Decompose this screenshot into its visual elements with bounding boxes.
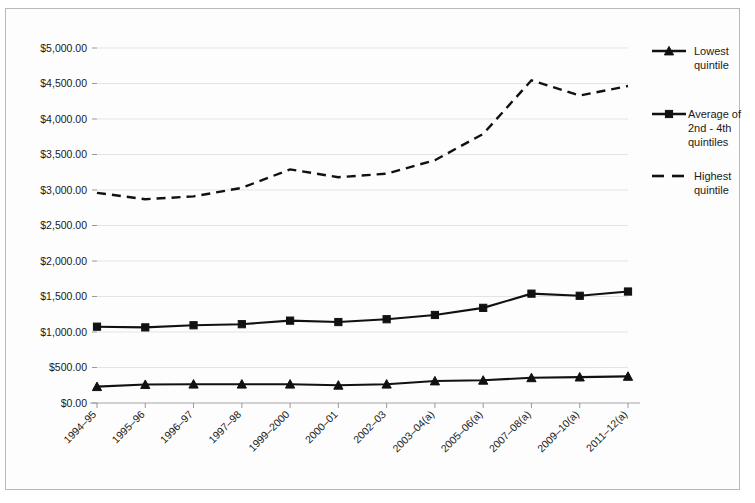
- y-axis-tick-label: $0.00: [61, 397, 87, 409]
- y-axis-tick-label: $4,500.00: [40, 77, 87, 89]
- data-point-marker: [190, 322, 197, 329]
- x-tickmarks-group: [97, 403, 628, 408]
- x-axis-tick-label: 1994–95: [61, 408, 99, 446]
- series-line-2: [97, 292, 628, 328]
- legend-label-2: 2nd - 4th: [688, 122, 731, 134]
- line-chart: $0.00$500.00$1,000.00$1,500.00$2,000.00$…: [0, 0, 755, 503]
- data-point-marker: [238, 321, 245, 328]
- legend-label-1: quintile: [694, 59, 729, 71]
- y-axis-tick-label: $5,000.00: [40, 42, 87, 54]
- y-axis-tick-label: $3,000.00: [40, 184, 87, 196]
- series-line-1: [97, 376, 628, 386]
- data-point-marker: [142, 324, 149, 331]
- data-point-marker: [93, 323, 100, 330]
- series-lines-group: [97, 80, 628, 386]
- legend-label-3: quintile: [694, 184, 729, 196]
- legend-label-2: quintiles: [688, 136, 729, 148]
- chart-canvas: $0.00$500.00$1,000.00$1,500.00$2,000.00$…: [0, 0, 755, 503]
- series-markers-group: [92, 288, 632, 391]
- x-axis-tick-label: 2009–10(a): [535, 408, 581, 454]
- data-point-marker: [383, 316, 390, 323]
- x-axis-tick-label: 1997–98: [206, 408, 244, 446]
- x-axis-tick-label: 2003–04(a): [390, 408, 436, 454]
- x-axis-tick-label: 2002–03: [351, 408, 389, 446]
- x-axis-tick-label: 1996–97: [158, 408, 196, 446]
- x-axis-tick-label: 2005–06(a): [438, 408, 484, 454]
- chart-legend: LowestquintileAverage of2nd - 4thquintil…: [652, 45, 742, 196]
- y-tickmarks-group: [92, 48, 97, 403]
- y-axis-tick-label: $2,000.00: [40, 255, 87, 267]
- legend-label-3: Highest: [694, 170, 731, 182]
- gridlines-group: [97, 48, 628, 368]
- x-axis-labels-group: 1994–951995–961996–971997–981999–2000200…: [61, 408, 629, 455]
- legend-label-2: Average of: [688, 108, 742, 120]
- data-point-marker: [335, 318, 342, 325]
- y-axis-labels-group: $0.00$500.00$1,000.00$1,500.00$2,000.00$…: [40, 42, 87, 409]
- y-axis-tick-label: $4,000.00: [40, 113, 87, 125]
- x-axis-tick-label: 1999–2000: [246, 408, 292, 454]
- data-point-marker: [286, 317, 293, 324]
- data-point-marker: [576, 292, 583, 299]
- data-point-marker: [624, 288, 631, 295]
- x-axis-tick-label: 2000–01: [302, 408, 340, 446]
- y-axis-tick-label: $1,000.00: [40, 326, 87, 338]
- series-line-3: [97, 80, 628, 199]
- y-axis-tick-label: $3,500.00: [40, 148, 87, 160]
- data-point-marker: [528, 290, 535, 297]
- data-point-marker: [431, 311, 438, 318]
- data-point-marker: [480, 304, 487, 311]
- legend-label-1: Lowest: [694, 45, 729, 57]
- x-axis-tick-label: 1995–96: [109, 408, 147, 446]
- y-axis-tick-label: $1,500.00: [40, 290, 87, 302]
- x-axis-tick-label: 2007–08(a): [486, 408, 532, 454]
- x-axis-tick-label: 2011–12(a): [583, 408, 629, 454]
- y-axis-tick-label: $2,500.00: [40, 219, 87, 231]
- y-axis-tick-label: $500.00: [49, 361, 87, 373]
- data-point-marker: [665, 110, 672, 117]
